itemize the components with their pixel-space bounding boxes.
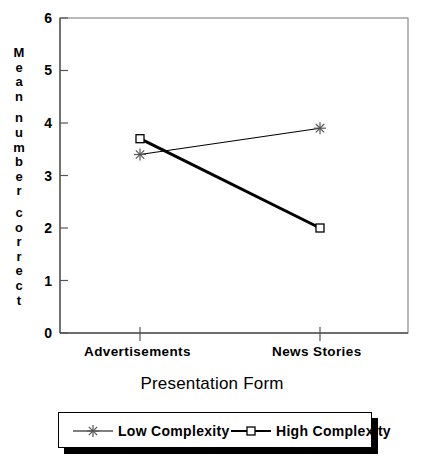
series-low-complexity-marker-0 <box>134 149 146 161</box>
asterisk-marker-icon <box>73 424 113 438</box>
x-axis-title: Presentation Form <box>0 374 424 394</box>
legend-item-low-complexity: Low Complexity <box>73 421 230 441</box>
legend: Low Complexity High Complexity <box>58 412 372 448</box>
line-chart-figure: Meannumbercorrect 6 5 4 3 2 1 0 <box>0 0 424 466</box>
square-marker-icon <box>231 424 271 438</box>
x-tick-label-news-stories: News Stories <box>272 344 362 359</box>
plot-area <box>0 0 424 466</box>
series-high-complexity-marker-1 <box>316 224 324 232</box>
plot-frame <box>60 18 408 333</box>
legend-item-high-complexity: High Complexity <box>231 421 391 441</box>
series-low-complexity-marker-1 <box>314 122 326 134</box>
legend-label-low-complexity: Low Complexity <box>118 423 230 439</box>
x-tick-label-advertisements: Advertisements <box>84 344 191 359</box>
series-high-complexity-marker-0 <box>136 135 144 143</box>
legend-label-high-complexity: High Complexity <box>276 423 391 439</box>
